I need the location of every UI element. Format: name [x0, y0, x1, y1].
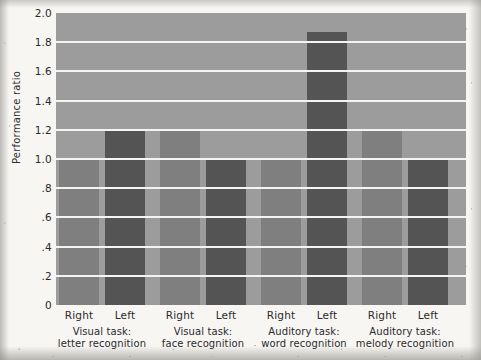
- x-axis-side-label: Left: [303, 309, 351, 321]
- bar-right: [261, 159, 301, 305]
- plot-area: [56, 13, 466, 305]
- y-axis-tick-label: 1.8: [6, 36, 52, 48]
- gridline: [56, 216, 466, 218]
- gridline: [56, 41, 466, 43]
- bar-left: [206, 159, 246, 305]
- x-axis-side-label: Left: [404, 309, 452, 321]
- gridline: [56, 129, 466, 131]
- y-axis-tick-label: 0: [6, 299, 52, 311]
- x-axis-side-label: Left: [101, 309, 149, 321]
- y-axis-tick-label: .8: [6, 182, 52, 194]
- gridline: [56, 158, 466, 160]
- gridline: [56, 70, 466, 72]
- gridline: [56, 100, 466, 102]
- x-axis-side-label: Right: [55, 309, 103, 321]
- bar-right: [59, 159, 99, 305]
- y-axis-title: Performance ratio: [11, 58, 22, 178]
- group-label-line1: Visual task:: [174, 326, 233, 337]
- gridline: [56, 275, 466, 277]
- x-axis-side-label: Right: [257, 309, 305, 321]
- bar-left: [307, 32, 347, 305]
- y-axis-tick-label: .6: [6, 211, 52, 223]
- x-axis-side-label: Right: [156, 309, 204, 321]
- y-axis-tick-label: 2.0: [6, 7, 52, 19]
- group-label-line1: Visual task:: [73, 326, 132, 337]
- performance-ratio-bar-chart: 2.01.81.61.41.21.0.8.6.4.20 Performance …: [0, 0, 481, 360]
- y-axis-ticks: 2.01.81.61.41.21.0.8.6.4.20: [0, 0, 52, 360]
- group-label-line1: Auditory task:: [369, 326, 440, 337]
- gridline: [56, 187, 466, 189]
- group-label-line1: Auditory task:: [268, 326, 339, 337]
- y-axis-tick-label: .2: [6, 270, 52, 282]
- group-label-line2: melody recognition: [340, 338, 470, 350]
- x-axis-group-label: Auditory task:melody recognition: [340, 326, 470, 350]
- x-axis-side-label: Left: [202, 309, 250, 321]
- x-axis-side-label: Right: [358, 309, 406, 321]
- y-axis-tick-label: .4: [6, 241, 52, 253]
- gridline: [56, 246, 466, 248]
- bar-left: [408, 159, 448, 305]
